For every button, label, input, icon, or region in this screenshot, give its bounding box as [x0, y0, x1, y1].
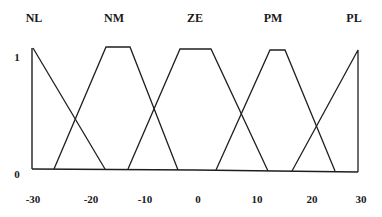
x-tick-label: -10 — [138, 193, 153, 205]
curve-nm — [54, 47, 178, 170]
x-tick-label: -30 — [26, 193, 41, 205]
x-tick-label: 10 — [252, 193, 264, 205]
x-tick-label: 30 — [356, 193, 368, 205]
set-label-pl: PL — [346, 11, 361, 25]
curve-nl — [33, 48, 105, 169]
x-axis-baseline — [32, 169, 358, 172]
set-label-pm: PM — [264, 11, 283, 25]
set-label-ze: ZE — [187, 11, 203, 25]
set-label-nm: NM — [104, 11, 124, 25]
set-label-nl: NL — [26, 11, 43, 25]
y-tick-label-1: 1 — [14, 51, 20, 63]
x-tick-label: -20 — [84, 193, 99, 205]
x-tick-label: 20 — [307, 193, 319, 205]
y-tick-label-0: 0 — [14, 168, 20, 180]
curve-pl — [292, 50, 358, 172]
membership-function-chart: NL NM ZE PM PL 1 0 -30 -20 -10 0 10 20 3… — [0, 0, 382, 217]
curve-ze — [128, 49, 268, 171]
x-tick-label: 0 — [195, 193, 201, 205]
curve-pm — [216, 50, 335, 171]
